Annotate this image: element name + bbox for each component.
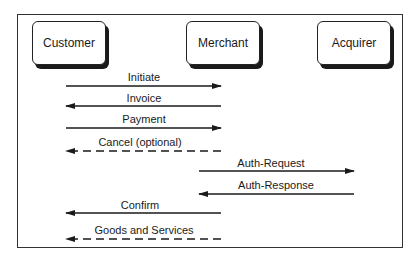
message-label: Goods and Services	[94, 224, 193, 236]
message-label: Auth-Response	[238, 179, 314, 191]
message-label: Confirm	[121, 199, 160, 211]
message-arrows	[0, 0, 418, 259]
message-label: Cancel (optional)	[98, 136, 181, 148]
message-label: Payment	[122, 113, 165, 125]
message-label: Invoice	[127, 92, 162, 104]
message-label: Auth-Request	[237, 157, 304, 169]
message-label: Initiate	[128, 71, 160, 83]
